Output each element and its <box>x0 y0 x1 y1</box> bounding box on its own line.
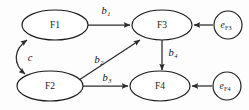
edge-label-b1-sub: 1 <box>107 10 110 17</box>
edge-label-b2-main: b <box>95 54 100 65</box>
edge-label-b1-main: b <box>102 5 107 16</box>
node-f4-label: F4 <box>155 81 165 91</box>
edge-label-b3: b3 <box>103 72 112 84</box>
node-error-f3[interactable]: eF3 <box>214 11 242 39</box>
node-error-f3-label-sub: F3 <box>225 24 232 31</box>
edge-b2-path <box>79 40 140 80</box>
node-error-f4-label-main: e <box>219 81 223 91</box>
edge-c-path <box>16 40 27 74</box>
edge-label-b3-sub: 3 <box>107 77 111 84</box>
node-error-f3-label-main: e <box>220 20 224 30</box>
edge-label-b4-main: b <box>169 47 174 58</box>
edge-label-c: c <box>28 52 33 63</box>
edge-label-b4: b4 <box>169 47 179 59</box>
node-error-f4-label-sub: F4 <box>224 85 231 92</box>
path-diagram-canvas: F1 F2 F3 F4 eF3 eF4 <box>0 0 249 110</box>
node-error-f4[interactable]: eF4 <box>213 72 241 100</box>
edge-label-b2-sub: 2 <box>100 59 104 66</box>
node-f2-label: F2 <box>45 81 55 91</box>
node-f1-label: F1 <box>50 20 60 30</box>
diagram-svg: F1 F2 F3 F4 eF3 eF4 <box>0 0 249 110</box>
edge-label-b4-sub: 4 <box>174 52 178 59</box>
node-f3[interactable]: F3 <box>132 10 192 40</box>
edge-label-b3-main: b <box>103 72 108 83</box>
edge-label-b2: b2 <box>95 54 105 66</box>
node-f1[interactable]: F1 <box>22 10 88 40</box>
edge-label-b1: b1 <box>102 5 111 17</box>
node-f2[interactable]: F2 <box>17 71 83 101</box>
node-f3-label: F3 <box>157 20 167 30</box>
node-f4[interactable]: F4 <box>130 71 190 101</box>
